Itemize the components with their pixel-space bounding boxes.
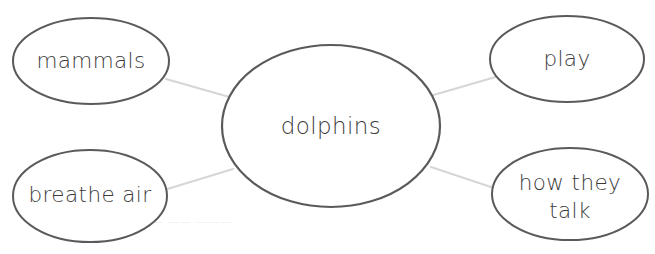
node-mammals[interactable]: mammals [13,18,169,104]
diagram-canvas: —— ——— ———— ——— —— ——— mammals play brea… [0,0,655,254]
connector-center-to-mammals [166,79,233,98]
node-breathe-air[interactable]: breathe air [13,150,167,242]
node-how-they-talk-label-line2: talk [549,198,591,223]
node-breathe-air-label: breathe air [29,182,152,207]
node-dolphins-label: dolphins [281,113,381,139]
word-web-diagram: —— ——— ———— ——— —— ——— mammals play brea… [0,0,655,254]
node-how-they-talk[interactable]: how they talk [492,148,648,240]
node-mammals-label: mammals [36,48,145,73]
node-play[interactable]: play [490,16,644,102]
connector-center-to-how-they-talk [431,167,500,190]
connector-center-to-breathe-air [164,169,233,190]
node-dolphins-center[interactable]: dolphins [222,45,440,207]
connector-center-to-play [430,76,499,96]
node-how-they-talk-label-line1: how they [519,170,621,195]
node-play-label: play [543,46,590,71]
